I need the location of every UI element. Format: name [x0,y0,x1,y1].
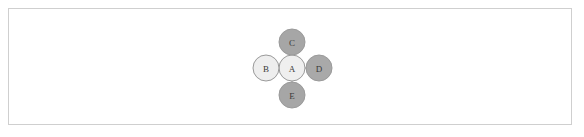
node-layer: ABCDE [253,29,332,108]
node-label-b: B [263,64,269,74]
graph-node-d[interactable]: D [306,55,332,81]
graph-node-a[interactable]: A [279,55,305,81]
graph-node-e[interactable]: E [279,82,305,108]
graph-node-b[interactable]: B [253,55,279,81]
graph-diagram: ABCDE [0,0,584,137]
node-label-a: A [289,64,296,74]
node-label-d: D [316,64,323,74]
node-label-e: E [289,91,295,101]
graph-node-c[interactable]: C [279,29,305,55]
node-label-c: C [289,38,295,48]
